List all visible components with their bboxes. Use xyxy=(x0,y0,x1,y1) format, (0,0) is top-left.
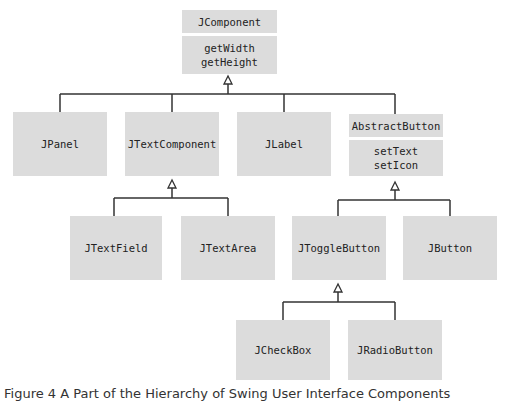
arrow-icon xyxy=(334,284,342,292)
class-jcomponent-methods: getWidth getHeight xyxy=(182,36,277,74)
class-jpanel: JPanel xyxy=(13,112,107,176)
class-jtextcomponent: JTextComponent xyxy=(125,112,219,176)
arrow-icon xyxy=(391,182,399,190)
method: setText xyxy=(374,144,418,158)
class-jtextarea: JTextArea xyxy=(181,216,275,280)
class-jcheckbox: JCheckBox xyxy=(236,320,330,380)
class-jtextfield: JTextField xyxy=(70,216,162,280)
class-jtogglebutton: JToggleButton xyxy=(292,216,386,280)
method: getHeight xyxy=(201,55,258,69)
class-abstractbutton-methods: setText setIcon xyxy=(349,140,443,176)
class-abstractbutton-header: AbstractButton xyxy=(349,114,443,137)
class-jcomponent-header: JComponent xyxy=(182,10,277,33)
method: setIcon xyxy=(374,158,418,172)
class-jradiobutton: JRadioButton xyxy=(348,320,442,380)
class-jbutton: JButton xyxy=(403,216,497,280)
arrow-icon xyxy=(168,180,176,188)
arrow-icon xyxy=(224,76,232,84)
figure-caption: Figure 4 A Part of the Hierarchy of Swin… xyxy=(4,386,450,401)
class-jlabel: JLabel xyxy=(237,112,331,176)
method: getWidth xyxy=(204,41,255,55)
